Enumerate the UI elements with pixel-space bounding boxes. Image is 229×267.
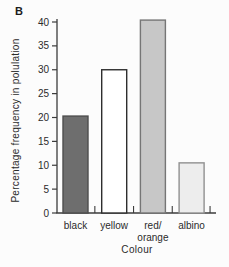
- x-category-label-redorange: red/: [144, 220, 161, 231]
- bar-yellow: [102, 70, 127, 213]
- y-tick-label-20: 20: [38, 112, 50, 123]
- bar-redorange: [140, 20, 165, 213]
- x-axis-title: Colour: [57, 244, 217, 255]
- x-category-label-redorange: orange: [137, 232, 169, 243]
- bar-black: [63, 116, 88, 213]
- y-tick-label-35: 35: [38, 40, 50, 51]
- y-tick-label-5: 5: [43, 184, 49, 195]
- x-category-label-black: black: [64, 220, 88, 231]
- y-tick-label-25: 25: [38, 88, 50, 99]
- y-tick-label-15: 15: [38, 136, 50, 147]
- bar-albino: [179, 163, 204, 213]
- y-tick-label-40: 40: [38, 17, 50, 28]
- figure-panel: { "figure_label": "B", "chart_data": { "…: [0, 0, 229, 267]
- y-tick-label-30: 30: [38, 64, 50, 75]
- y-tick-label-10: 10: [38, 160, 50, 171]
- bar-chart: 0510152025303540blackyellowred/orangealb…: [0, 0, 229, 267]
- x-category-label-yellow: yellow: [100, 220, 129, 231]
- x-category-label-albino: albino: [178, 220, 205, 231]
- y-tick-label-0: 0: [43, 208, 49, 219]
